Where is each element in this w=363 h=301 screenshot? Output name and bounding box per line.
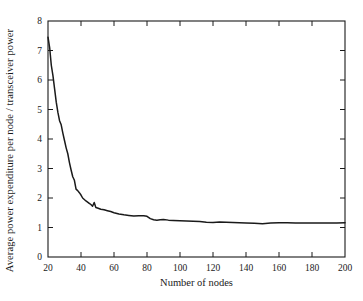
x-tick-label: 140 [239, 263, 254, 273]
x-tick-label: 160 [272, 263, 287, 273]
y-tick-label: 4 [37, 134, 42, 144]
x-tick-label: 80 [142, 263, 152, 273]
y-tick-label: 3 [37, 164, 42, 174]
x-tick-label: 180 [305, 263, 320, 273]
y-axis-tick-labels: 012345678 [37, 16, 42, 262]
plot-canvas: 20406080100120140160180200 012345678 [0, 0, 363, 301]
x-tick-label: 20 [43, 263, 53, 273]
x-axis-tick-labels: 20406080100120140160180200 [43, 263, 352, 273]
x-tick-label: 100 [173, 263, 188, 273]
x-tick-label: 120 [206, 263, 221, 273]
x-tick-label: 200 [338, 263, 353, 273]
y-tick-label: 0 [37, 252, 42, 262]
x-tick-label: 40 [76, 263, 86, 273]
y-tick-label: 1 [37, 223, 42, 233]
y-tick-label: 2 [37, 193, 42, 203]
y-tick-label: 8 [37, 16, 42, 26]
y-tick-label: 6 [37, 75, 42, 85]
x-tick-label: 60 [109, 263, 119, 273]
chart-figure: Average power expenditure per node / tra… [0, 0, 363, 301]
y-tick-label: 7 [37, 46, 42, 56]
y-tick-label: 5 [37, 105, 42, 115]
